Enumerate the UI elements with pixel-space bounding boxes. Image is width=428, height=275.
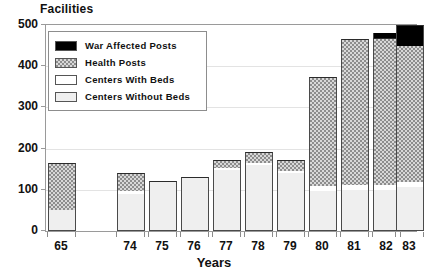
x-axis-tick-label: 65 xyxy=(54,239,67,253)
bar-chart: Facilities 0100200300400500 657475767778… xyxy=(0,0,428,275)
x-axis-tick-mark xyxy=(308,232,309,237)
bar-segment xyxy=(149,181,177,182)
x-axis-tick-mark xyxy=(372,232,373,237)
x-axis-tick-mark xyxy=(75,232,76,237)
bar-segment xyxy=(117,191,145,193)
bar[interactable] xyxy=(213,25,241,231)
legend-item[interactable]: Centers Without Beds xyxy=(55,88,200,105)
x-axis-tick-mark xyxy=(395,232,396,237)
x-axis-tick-label: 75 xyxy=(155,239,168,253)
bar-segment xyxy=(149,182,177,231)
legend: War Affected PostsHealth PostsCenters Wi… xyxy=(48,31,207,111)
bar-segment xyxy=(181,178,209,231)
x-axis-tick-mark xyxy=(208,232,209,237)
bar-segment xyxy=(309,186,337,191)
bar-segment xyxy=(396,182,424,187)
bar[interactable] xyxy=(245,25,273,231)
x-axis-tick-label: 79 xyxy=(283,239,296,253)
bar-segment xyxy=(213,160,241,168)
y-axis-tick-label: 100 xyxy=(0,182,38,196)
x-axis-title: Years xyxy=(0,255,428,270)
legend-item[interactable]: War Affected Posts xyxy=(55,37,200,54)
bar-segment xyxy=(341,39,369,184)
bar-segment xyxy=(181,177,209,178)
legend-item[interactable]: Health Posts xyxy=(55,54,200,71)
x-axis-tick-mark xyxy=(368,232,369,237)
x-axis-tick-mark xyxy=(272,232,273,237)
x-axis-tick-mark xyxy=(340,232,341,237)
x-axis-tick-mark xyxy=(244,232,245,237)
legend-swatch xyxy=(55,92,77,102)
x-axis-tick-mark xyxy=(176,232,177,237)
y-axis-tick-label: 400 xyxy=(0,58,38,72)
x-axis-tick-mark xyxy=(240,232,241,237)
y-axis-tick-label: 200 xyxy=(0,141,38,155)
bar-segment xyxy=(309,191,337,231)
bar-segment xyxy=(117,194,145,231)
legend-swatch xyxy=(55,75,77,85)
x-axis-tick-mark xyxy=(116,232,117,237)
x-axis-tick-label: 74 xyxy=(123,239,136,253)
x-axis-tick-mark xyxy=(148,232,149,237)
x-axis-tick-mark xyxy=(212,232,213,237)
bar-segment xyxy=(277,160,305,172)
bar-segment xyxy=(277,171,305,173)
y-axis-tick-label: 300 xyxy=(0,99,38,113)
legend-item[interactable]: Centers With Beds xyxy=(55,71,200,88)
bar-segment xyxy=(341,185,369,190)
x-axis-tick-label: 83 xyxy=(402,239,415,253)
x-axis-tick-mark xyxy=(400,232,401,237)
bar-segment xyxy=(245,165,273,231)
x-axis-tick-mark xyxy=(336,232,337,237)
bar-segment xyxy=(396,46,424,181)
legend-label: Centers Without Beds xyxy=(85,91,190,102)
bar-segment xyxy=(396,25,424,46)
bar-segment xyxy=(341,190,369,231)
x-axis-tick-mark xyxy=(144,232,145,237)
legend-swatch xyxy=(55,41,77,51)
bar-segment xyxy=(245,163,273,165)
x-axis-tick-label: 77 xyxy=(219,239,232,253)
bar-segment xyxy=(48,210,76,231)
x-axis-tick-mark xyxy=(276,232,277,237)
bar-segment xyxy=(48,163,76,211)
bar[interactable] xyxy=(396,25,424,231)
x-axis-tick-label: 80 xyxy=(315,239,328,253)
x-axis-tick-label: 82 xyxy=(379,239,392,253)
bar-segment xyxy=(277,173,305,231)
bar[interactable] xyxy=(309,25,337,231)
x-axis-tick-mark xyxy=(304,232,305,237)
bar-segment xyxy=(117,173,145,191)
bar-segment xyxy=(245,152,273,163)
x-axis-tick-label: 76 xyxy=(187,239,200,253)
x-axis-tick-mark xyxy=(423,232,424,237)
y-axis-tick-label: 0 xyxy=(0,223,38,237)
legend-label: War Affected Posts xyxy=(85,40,177,51)
x-axis-tick-label: 81 xyxy=(347,239,360,253)
bar-segment xyxy=(213,170,241,231)
bar-segment xyxy=(396,187,424,231)
bar[interactable] xyxy=(277,25,305,231)
x-axis-tick-mark xyxy=(180,232,181,237)
x-axis-tick-mark xyxy=(47,232,48,237)
bar[interactable] xyxy=(341,25,369,231)
legend-label: Health Posts xyxy=(85,57,146,68)
bar-segment xyxy=(309,77,337,185)
bar-segment xyxy=(213,168,241,170)
legend-swatch xyxy=(55,58,77,68)
y-axis-tick-label: 500 xyxy=(0,17,38,31)
x-axis-tick-label: 78 xyxy=(251,239,264,253)
legend-label: Centers With Beds xyxy=(85,74,174,85)
